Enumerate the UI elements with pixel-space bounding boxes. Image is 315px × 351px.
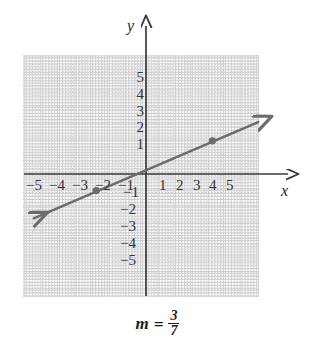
x-tick-label-neg4: −4 [49, 178, 65, 193]
x-tick-label-3: 3 [193, 178, 201, 193]
slope-caption: m=37 [0, 310, 315, 340]
y-tick-label-2: 2 [126, 120, 144, 135]
x-tick-label-4: 4 [209, 178, 217, 193]
y-tick-label-neg1: −1 [121, 185, 139, 200]
y-tick-label-3: 3 [126, 104, 144, 119]
slope-fraction: 37 [168, 309, 179, 339]
data-point [209, 137, 216, 144]
slope-variable: m [136, 314, 149, 333]
x-tick-label-neg5: −5 [26, 178, 42, 193]
x-tick-label-neg2: −2 [95, 178, 111, 193]
graph-figure: y x −5 −4 −3 −2 −1 1 2 3 4 5 5 4 3 2 1 −… [0, 0, 315, 351]
y-tick-label-5: 5 [126, 70, 144, 85]
y-tick-label-neg5: −5 [118, 253, 136, 268]
x-tick-label-2: 2 [176, 178, 184, 193]
y-tick-label-1: 1 [126, 137, 144, 152]
x-tick-label-neg3: −3 [72, 178, 88, 193]
y-tick-label-4: 4 [126, 87, 144, 102]
plot-canvas [0, 0, 315, 351]
x-tick-label-1: 1 [159, 178, 167, 193]
x-tick-label-5: 5 [226, 178, 234, 193]
fraction-numerator: 3 [168, 309, 179, 323]
x-axis-label: x [281, 183, 288, 199]
y-tick-label-neg4: −4 [118, 236, 136, 251]
y-axis-label: y [127, 18, 134, 34]
equals-sign: = [154, 315, 164, 335]
y-tick-label-neg2: −2 [118, 202, 136, 217]
fraction-denominator: 7 [168, 323, 179, 338]
y-tick-label-neg3: −3 [118, 219, 136, 234]
